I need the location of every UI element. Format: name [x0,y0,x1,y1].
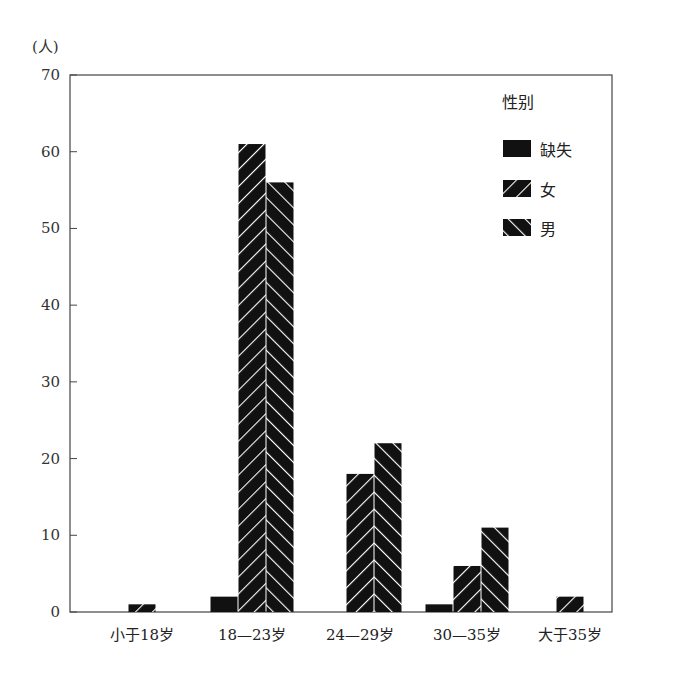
bar-female [557,597,584,612]
legend-label-missing: 缺失 [540,141,572,160]
bar-female [454,566,481,612]
legend-label-female: 女 [540,181,556,200]
bar-missing [211,597,238,612]
x-category-label: 24—29岁 [326,626,394,644]
x-category-label: 小于18岁 [110,626,174,644]
x-category-label: 大于35岁 [538,626,602,644]
svg-text:(人): (人) [32,38,59,56]
legend-swatch-missing [503,140,531,157]
y-tick-label: 60 [41,143,60,161]
y-tick-label: 20 [41,450,60,468]
bar-male [267,182,294,612]
bars [129,144,584,612]
bar-female [129,604,156,612]
x-axis-labels: 小于18岁18—23岁24—29岁30—35岁大于35岁 [110,626,602,644]
y-tick-label: 70 [41,66,60,84]
bar-male [375,443,402,612]
legend-title: 性别 [502,93,534,112]
bar-male [482,528,509,612]
legend-label-male: 男 [540,220,556,239]
y-tick-label: 0 [50,603,60,621]
x-category-label: 30—35岁 [433,626,501,644]
y-tick-label: 10 [41,526,60,544]
y-tick-label: 40 [41,296,60,314]
legend: 性别 缺失 女 男 [502,93,572,239]
bar-female [347,474,374,612]
y-axis: 010203040506070 [41,66,77,621]
y-unit-label: (人) [32,38,59,56]
y-tick-label: 30 [41,373,60,391]
x-category-label: 18—23岁 [218,626,286,644]
legend-swatch-male [503,219,531,236]
bar-chart: (人) 010203040506070 小于18岁18—23岁24—29岁30—… [0,0,680,678]
y-tick-label: 50 [41,219,60,237]
legend-swatch-female [503,180,531,197]
bar-female [239,144,266,612]
bar-missing [426,604,453,612]
